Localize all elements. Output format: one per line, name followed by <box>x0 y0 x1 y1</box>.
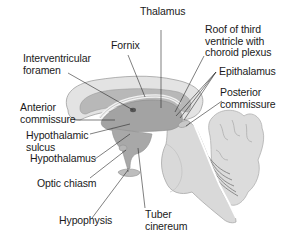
label-hypophysis: Hypophysis <box>59 215 112 227</box>
label-roof-third-ventricle: Roof of third ventricle with choroid ple… <box>205 24 271 59</box>
label-anterior-commissure: Anterior commissure <box>20 102 76 125</box>
label-optic-chiasm: Optic chiasm <box>37 178 96 190</box>
label-posterior-commissure: Posterior commissure <box>220 87 276 110</box>
hypothalamus-shape <box>112 128 152 177</box>
label-hypothalamic-sulcus: Hypothalamic sulcus <box>26 130 88 153</box>
label-hypothalamus: Hypothalamus <box>30 153 96 165</box>
label-epithalamus: Epithalamus <box>219 66 276 78</box>
label-tuber-cinereum: Tuber cinereum <box>145 209 187 232</box>
hypophysis-shape <box>118 169 140 177</box>
diencephalon-diagram: Thalamus Fornix Roof of third ventricle … <box>0 0 292 247</box>
label-interventricular-foramen: Interventricular foramen <box>23 53 91 76</box>
label-fornix: Fornix <box>111 40 140 52</box>
label-thalamus: Thalamus <box>140 6 185 18</box>
